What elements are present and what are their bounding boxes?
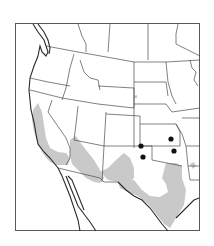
record-points	[138, 136, 176, 159]
record-dot	[168, 136, 173, 141]
record-dot	[171, 148, 176, 153]
distribution-map	[0, 0, 214, 246]
record-dot	[140, 154, 145, 159]
record-dot	[138, 143, 143, 148]
range-shading	[32, 95, 196, 228]
